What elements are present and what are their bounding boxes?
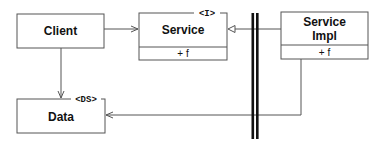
uml-diagram: Client <I> Service + f Service Impl + f … bbox=[0, 0, 384, 149]
data-class[interactable]: <DS> Data bbox=[17, 94, 105, 133]
service-member-f: + f bbox=[177, 48, 189, 59]
service-impl-class[interactable]: Service Impl + f bbox=[281, 12, 368, 59]
datastore-stereotype: <DS> bbox=[75, 95, 97, 105]
edge-client-to-data bbox=[58, 48, 64, 98]
client-class[interactable]: Client bbox=[17, 14, 104, 48]
service-interface[interactable]: <I> Service + f bbox=[139, 8, 227, 60]
edge-impl-to-data bbox=[106, 59, 301, 118]
service-impl-label-line1: Service bbox=[303, 15, 346, 29]
interface-stereotype: <I> bbox=[199, 9, 215, 19]
edge-client-to-service bbox=[104, 26, 138, 32]
service-impl-member-f: + f bbox=[319, 47, 331, 58]
service-impl-label-line2: Impl bbox=[312, 29, 337, 43]
data-label: Data bbox=[48, 110, 74, 124]
service-label: Service bbox=[162, 23, 205, 37]
layer-boundary-double-bar bbox=[252, 13, 259, 139]
client-label: Client bbox=[44, 24, 77, 38]
edge-impl-realizes-service bbox=[228, 26, 281, 33]
